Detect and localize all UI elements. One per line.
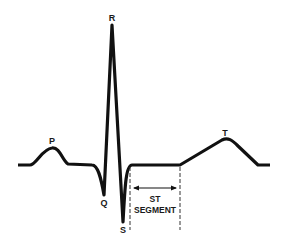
st-label-line2: SEGMENT bbox=[134, 205, 177, 215]
label-t: T bbox=[222, 128, 228, 138]
ecg-waveform-line bbox=[18, 25, 270, 222]
ecg-diagram: P R Q S T ST SEGMENT bbox=[0, 0, 286, 245]
st-label-line1: ST bbox=[150, 194, 162, 204]
label-r: R bbox=[109, 13, 116, 23]
label-s: S bbox=[120, 225, 126, 235]
label-p: P bbox=[49, 136, 55, 146]
st-segment-arrow bbox=[133, 186, 177, 191]
label-q: Q bbox=[100, 198, 107, 208]
